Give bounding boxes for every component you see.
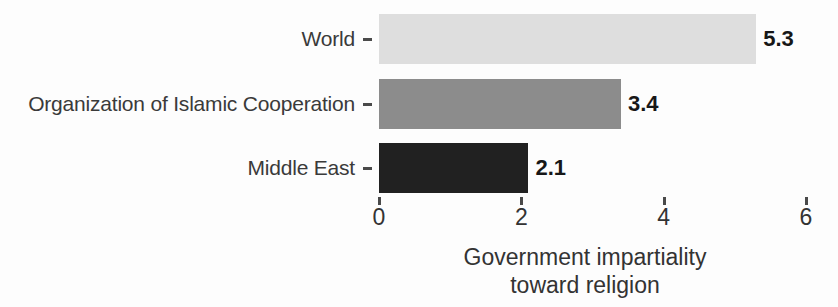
bar-organization-of-islamic-cooperation [379, 79, 621, 129]
category-tick-middle-east [363, 167, 372, 170]
bar-world [379, 14, 756, 64]
x-axis-tick-label-4: 4 [657, 206, 670, 229]
bar-value-middle-east: 2.1 [535, 157, 566, 179]
bar-value-organization-of-islamic-cooperation: 3.4 [628, 93, 659, 115]
x-axis-tick-label-6: 6 [800, 206, 813, 229]
category-label-world: World [0, 28, 355, 49]
x-axis-tick-label-0: 0 [373, 206, 386, 229]
x-axis-title-line-2: toward religion [390, 271, 780, 299]
category-label-organization-of-islamic-cooperation: Organization of Islamic Cooperation [0, 93, 355, 114]
bar-value-world: 5.3 [763, 28, 794, 50]
x-axis-title: Government impartiality toward religion [390, 243, 780, 299]
x-axis-title-line-1: Government impartiality [390, 243, 780, 271]
category-tick-organization-of-islamic-cooperation [363, 103, 372, 106]
bar-chart: 5.3 World 3.4 Organization of Islamic Co… [0, 0, 838, 307]
bar-middle-east [379, 143, 528, 193]
category-tick-world [363, 38, 372, 41]
category-label-middle-east: Middle East [0, 157, 355, 178]
x-axis-tick-label-2: 2 [515, 206, 528, 229]
